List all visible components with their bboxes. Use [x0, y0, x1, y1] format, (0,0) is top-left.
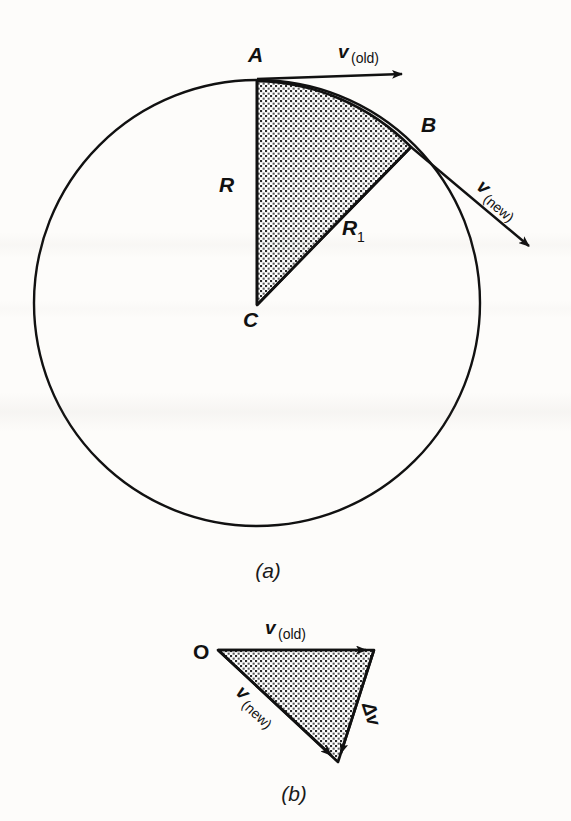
svg-text:R: R: [342, 216, 358, 239]
v-old-arrow-a: [257, 74, 402, 79]
caption-a: (a): [255, 559, 281, 582]
figure-canvas: A B C R R 1 v (old) v (new) (a): [0, 0, 571, 821]
v-old-label-b: v (old): [265, 617, 306, 642]
v-old-label-a: v (old): [338, 41, 379, 66]
radius-label-R: R: [219, 173, 235, 196]
caption-b: (b): [281, 782, 307, 805]
panel-b: O v (old) v (new) Δv (b): [193, 617, 385, 805]
point-label-C: C: [243, 308, 259, 331]
point-label-O: O: [193, 640, 209, 663]
svg-text:v: v: [338, 41, 350, 62]
panel-a: A B C R R 1 v (old) v (new) (a): [34, 41, 529, 582]
svg-text:1: 1: [357, 229, 365, 245]
delta-v-label: Δv: [358, 698, 386, 729]
physics-diagram-svg: A B C R R 1 v (old) v (new) (a): [0, 0, 571, 821]
svg-text:Δv: Δv: [358, 698, 386, 729]
v-new-arrow-a: [411, 147, 529, 246]
svg-text:(old): (old): [351, 50, 379, 66]
svg-text:(old): (old): [278, 626, 306, 642]
radius-label-R1: R 1: [342, 216, 365, 245]
svg-text:v: v: [265, 617, 277, 638]
sector-shading: [257, 81, 411, 305]
point-label-B: B: [421, 113, 436, 136]
point-label-A: A: [247, 43, 263, 66]
svg-text:(new): (new): [239, 696, 276, 732]
